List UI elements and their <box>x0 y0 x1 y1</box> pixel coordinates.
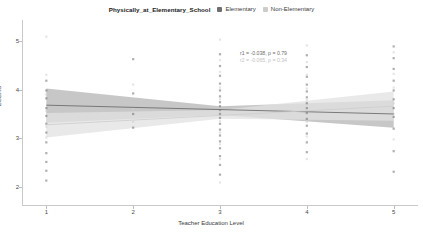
scatter-point <box>219 95 221 97</box>
scatter-point <box>219 59 221 61</box>
scatter-point <box>219 75 221 77</box>
scatter-point <box>306 102 308 104</box>
x-tick-label: 1 <box>45 209 48 215</box>
x-tick-label: 4 <box>305 209 308 215</box>
y-tick-mark <box>19 41 22 42</box>
scatter-point <box>393 107 395 109</box>
legend-item-elementary[interactable]: Elementary <box>217 6 255 12</box>
scatter-point <box>219 174 221 176</box>
scatter-point <box>45 131 47 133</box>
scatter-point <box>219 120 221 122</box>
x-tick-mark <box>133 206 134 209</box>
chart-legend: Physically_at_Elementary_School Elementa… <box>0 2 423 16</box>
scatter-point <box>393 138 395 140</box>
legend-label-elementary: Elementary <box>225 6 255 12</box>
scatter-point <box>393 51 395 53</box>
scatter-point <box>393 45 395 47</box>
y-tick-mark <box>19 90 22 91</box>
scatter-point <box>219 129 221 131</box>
scatter-point <box>219 98 221 100</box>
scatter-point <box>45 93 47 95</box>
scatter-point <box>393 89 395 91</box>
scatter-point <box>45 152 47 154</box>
scatter-point <box>306 74 308 76</box>
scatter-point <box>45 115 47 117</box>
scatter-point <box>132 92 134 94</box>
scatter-point <box>45 97 47 99</box>
scatter-point <box>393 68 395 70</box>
scatter-point <box>219 158 221 160</box>
scatter-point <box>132 58 134 60</box>
scatter-point <box>219 155 221 157</box>
plot-area: 2345 12345 r1 = -0.038, p = 0.79 r2 = -0… <box>22 20 418 206</box>
scatter-point <box>306 121 308 123</box>
scatter-point <box>306 141 308 143</box>
scatter-point <box>219 117 221 119</box>
scatter-point <box>219 164 221 166</box>
scatter-point <box>219 53 221 55</box>
scatter-point <box>393 128 395 130</box>
scatter-point <box>219 65 221 67</box>
scatter-point <box>45 136 47 138</box>
scatter-point <box>219 86 221 88</box>
scatter-point <box>219 89 221 91</box>
scatter-point <box>306 135 308 137</box>
scatter-point <box>306 118 308 120</box>
y-tick-mark <box>19 138 22 139</box>
x-tick-label: 5 <box>392 209 395 215</box>
scatter-point <box>132 113 134 115</box>
scatter-point <box>306 90 308 92</box>
legend-swatch-non-elementary <box>263 7 268 12</box>
scatter-point <box>45 161 47 163</box>
scatter-point <box>393 116 395 118</box>
scatter-point <box>306 151 308 153</box>
legend-item-non-elementary[interactable]: Non-Elementary <box>263 6 314 12</box>
y-axis-line <box>22 20 23 206</box>
scatter-point <box>219 71 221 73</box>
scatter-point <box>306 44 308 46</box>
scatter-point <box>45 80 47 82</box>
y-axis-label: ECERS <box>0 86 2 107</box>
correlation-annotation: r1 = -0.038, p = 0.79 r2 = -0.065, p = 0… <box>240 50 370 65</box>
scatter-point <box>45 126 47 128</box>
annotation-elementary: r1 = -0.038, p = 0.79 <box>240 50 370 57</box>
scatter-point <box>219 140 221 142</box>
scatter-point <box>45 36 47 38</box>
scatter-point <box>219 134 221 136</box>
scatter-point <box>306 107 308 109</box>
scatter-point <box>306 99 308 101</box>
scatter-point <box>45 89 47 91</box>
x-axis-label: Teacher Education Level <box>178 220 244 226</box>
scatter-point <box>219 83 221 85</box>
scatter-point <box>219 123 221 125</box>
scatter-point <box>219 143 221 145</box>
scatter-point <box>393 80 395 82</box>
scatter-point <box>132 108 134 110</box>
scatter-point <box>306 76 308 78</box>
scatter-point <box>306 158 308 160</box>
x-tick-label: 2 <box>131 209 134 215</box>
legend-label-non-elementary: Non-Elementary <box>271 6 314 12</box>
scatter-point <box>45 141 47 143</box>
scatter-point <box>219 101 221 103</box>
scatter-point <box>45 110 47 112</box>
scatter-point <box>306 66 308 68</box>
scatter-point <box>393 86 395 88</box>
scatter-point <box>132 84 134 86</box>
scatter-point <box>306 96 308 98</box>
scatter-point <box>45 74 47 76</box>
scatter-point <box>393 171 395 173</box>
scatter-point <box>306 125 308 127</box>
y-tick-mark <box>19 187 22 188</box>
annotation-non-elementary: r2 = -0.065, p = 0.34 <box>240 57 370 64</box>
scatter-point <box>45 170 47 172</box>
scatter-point <box>393 73 395 75</box>
scatter-point <box>219 105 221 107</box>
scatter-point <box>219 38 221 40</box>
scatter-point <box>393 102 395 104</box>
scatter-point <box>393 57 395 59</box>
x-tick-mark <box>394 206 395 209</box>
x-tick-mark <box>46 206 47 209</box>
chart-figure: Physically_at_Elementary_School Elementa… <box>0 0 423 232</box>
scatter-point <box>132 121 134 123</box>
